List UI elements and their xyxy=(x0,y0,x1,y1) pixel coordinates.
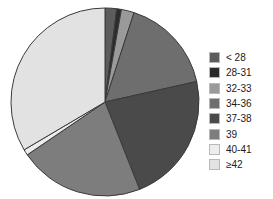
legend-swatch-icon xyxy=(209,113,220,124)
legend-item[interactable]: ≥42 xyxy=(209,157,273,172)
legend-item-label: 40-41 xyxy=(226,144,252,155)
legend-swatch-icon xyxy=(209,98,220,109)
legend-swatch-icon xyxy=(209,83,220,94)
pie-chart-figure: < 28 28-31 32-33 34-36 37-38 39 40-41 ≥ xyxy=(0,0,273,199)
legend-swatch-icon xyxy=(209,144,220,155)
legend-item-label: 28-31 xyxy=(226,67,252,78)
chart-legend: < 28 28-31 32-33 34-36 37-38 39 40-41 ≥ xyxy=(209,50,273,172)
pie-slices-group xyxy=(11,8,199,196)
legend-item-label: ≥42 xyxy=(226,159,243,170)
legend-item-label: 32-33 xyxy=(226,83,252,94)
legend-item-label: < 28 xyxy=(226,52,246,63)
pie-chart-area xyxy=(9,6,201,198)
legend-item[interactable]: 39 xyxy=(209,126,273,141)
legend-swatch-icon xyxy=(209,67,220,78)
legend-swatch-icon xyxy=(209,129,220,140)
legend-item[interactable]: 32-33 xyxy=(209,81,273,96)
legend-item[interactable]: 37-38 xyxy=(209,111,273,126)
pie-chart-svg xyxy=(9,6,201,198)
legend-item[interactable]: < 28 xyxy=(209,50,273,65)
legend-item-label: 39 xyxy=(226,129,237,140)
legend-item[interactable]: 28-31 xyxy=(209,65,273,80)
legend-item-label: 34-36 xyxy=(226,98,252,109)
legend-item-label: 37-38 xyxy=(226,113,252,124)
legend-item[interactable]: 34-36 xyxy=(209,96,273,111)
legend-swatch-icon xyxy=(209,159,220,170)
legend-item[interactable]: 40-41 xyxy=(209,142,273,157)
legend-swatch-icon xyxy=(209,52,220,63)
